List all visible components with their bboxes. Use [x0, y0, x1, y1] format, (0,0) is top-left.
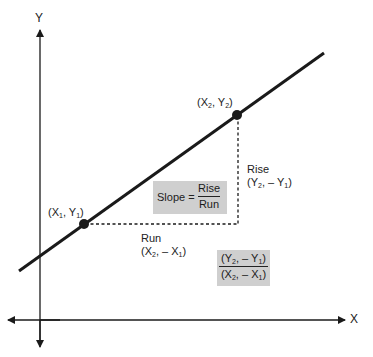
slope-prefix: Slope =	[157, 191, 195, 204]
coordinate-fraction: (Y2, – Y1) (X2, – X1)	[219, 252, 268, 281]
slope-denominator: Run	[199, 198, 219, 211]
slope-formula-box: Slope = Rise Run	[153, 181, 227, 214]
p2-pre: (X	[197, 96, 208, 108]
diagram-canvas	[0, 0, 373, 357]
slope-diagram: Y X (X2, Y2) (X1, Y1) Rise (Y2, – Y1) Ru…	[0, 0, 373, 357]
coordinate-formula-box: (Y2, – Y1) (X2, – X1)	[217, 250, 270, 286]
formula-denominator: (X2, – X1)	[221, 268, 266, 281]
fraction-bar	[198, 196, 220, 197]
run-title: Run	[141, 232, 186, 245]
rise-label: Rise (Y2, – Y1)	[247, 163, 292, 189]
p1-mid: , Y	[63, 206, 76, 218]
fraction-bar	[219, 266, 268, 267]
y-axis-label: Y	[35, 12, 43, 25]
point-2-label: (X2, Y2)	[197, 96, 233, 109]
p2-post: )	[229, 96, 233, 108]
point-1-label: (X1, Y1)	[48, 206, 84, 219]
run-expr: (X2, – X1)	[141, 245, 186, 258]
rise-expr: (Y2, – Y1)	[247, 176, 292, 189]
x-axis-label: X	[350, 313, 358, 326]
point-1	[79, 219, 89, 229]
p1-post: )	[80, 206, 84, 218]
run-label: Run (X2, – X1)	[141, 232, 186, 258]
p2-mid: , Y	[212, 96, 225, 108]
slope-fraction: Rise Run	[198, 182, 220, 211]
rise-title: Rise	[247, 163, 292, 176]
point-2	[232, 110, 242, 120]
p1-pre: (X	[48, 206, 59, 218]
slope-numerator: Rise	[198, 182, 220, 195]
formula-numerator: (Y2, – Y1)	[221, 252, 266, 265]
